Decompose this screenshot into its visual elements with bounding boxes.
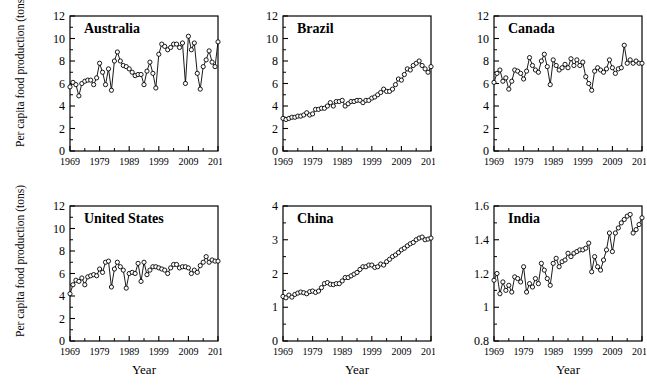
data-point [634,228,638,232]
data-point [593,255,597,259]
data-point [607,58,611,62]
data-point [507,283,511,287]
panel-canada: 024681012196919791989199920092019Canada [464,4,646,189]
data-point [581,60,585,64]
data-point [92,83,96,87]
data-point [340,98,344,102]
data-point [115,50,119,54]
y-axis-label: Per capita food production (tons) [14,0,26,147]
data-point [98,61,102,65]
panel-title: Brazil [297,21,334,36]
data-point [399,78,403,82]
data-point [213,65,217,69]
x-tick-label: 1989 [543,156,563,167]
data-point [604,248,608,252]
x-tick-label: 1999 [149,346,169,357]
y-tick-label: 1 [272,300,278,314]
data-point [80,276,84,280]
data-point [492,80,496,84]
data-point [109,285,113,289]
data-point [530,63,534,67]
data-point [613,71,617,75]
data-point [311,112,315,116]
data-point [507,87,511,91]
data-point [180,41,184,45]
data-point [207,49,211,53]
x-tick-label: 1999 [149,156,169,167]
x-axis-label: Year [556,362,581,377]
x-tick-label: 2019 [208,156,222,167]
data-point [530,285,534,289]
y-tick-label: 6 [59,267,65,281]
data-point [115,260,119,264]
x-tick-label: 2009 [602,156,622,167]
x-tick-label: 2009 [178,346,198,357]
panel-brazil: 024681012196919791989199920092019Brazil [253,4,435,189]
x-tick-label: 2019 [421,156,435,167]
y-tick-label: 2 [483,122,489,136]
y-tick-label: 10 [266,32,278,46]
data-point [408,68,412,72]
data-point [551,261,555,265]
data-point [584,246,588,250]
y-tick-label: 1 [483,300,489,314]
panel-title: China [297,211,334,226]
data-point [390,87,394,91]
y-tick-label: 2 [272,122,278,136]
data-point [498,292,502,296]
data-point [628,212,632,216]
data-point [533,276,537,280]
data-point [545,276,549,280]
data-point [610,66,614,70]
x-axis-label: Year [132,362,157,377]
panel-united-states: 024681012196919791989199920092019United … [40,194,222,379]
data-point [563,258,567,262]
x-tick-label: 2019 [421,346,435,357]
data-point [151,71,155,75]
x-axis-label: Year [345,362,370,377]
y-axis-label: Per capita food production (tons) [14,185,26,337]
data-point [622,43,626,47]
data-point [100,70,104,74]
data-point [95,274,99,278]
data-point [524,290,528,294]
data-point [68,292,72,296]
panel-title: India [508,211,540,226]
y-tick-label: 12 [266,9,278,23]
x-tick-label: 1979 [514,156,534,167]
data-point [112,59,116,63]
data-point [495,271,499,275]
x-tick-label: 1969 [273,156,293,167]
x-tick-label: 2009 [178,156,198,167]
data-point [183,81,187,85]
data-point [519,280,523,284]
panel-india: 0.811.21.41.6196919791989199920092019Ind… [464,194,646,379]
data-point [186,266,190,270]
data-point [557,265,561,269]
data-point [542,52,546,56]
data-point [68,85,72,89]
y-tick-label: 2 [59,122,65,136]
y-tick-label: 6 [483,77,489,91]
data-point [539,59,543,63]
x-tick-label: 1999 [573,346,593,357]
data-point [139,279,143,283]
y-tick-label: 6 [59,77,65,91]
x-tick-label: 2009 [391,346,411,357]
x-tick-label: 1999 [362,346,382,357]
data-point [607,231,611,235]
data-point [601,258,605,262]
panel-title: Canada [508,21,555,36]
x-tick-label: 1989 [119,156,139,167]
data-point [522,77,526,81]
data-point [106,259,110,263]
data-point [121,268,125,272]
panel-china: 01234196919791989199920092019ChinaYear [253,194,435,379]
x-tick-label: 1979 [90,346,110,357]
data-point [77,94,81,98]
data-point [569,57,573,61]
y-tick-label: 8 [59,244,65,258]
data-point [504,76,508,80]
data-point [637,222,641,226]
x-tick-label: 1969 [484,346,504,357]
